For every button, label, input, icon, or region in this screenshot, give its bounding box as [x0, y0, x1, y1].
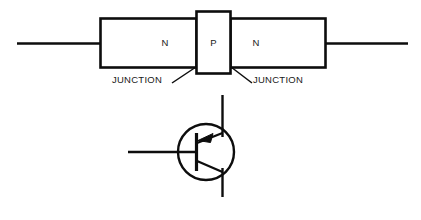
- p-region-center-label: P: [210, 37, 217, 48]
- n-region-left: [101, 19, 197, 68]
- junction-leader-right: [231, 67, 252, 83]
- transistor-figure: N P N JUNCTION JUNCTION: [0, 0, 421, 220]
- junction-leader-left: [172, 67, 196, 83]
- n-region-right: [231, 19, 326, 68]
- schematic-symbol: [128, 95, 234, 197]
- n-region-left-label: N: [161, 37, 168, 48]
- junction-label-left: JUNCTION: [112, 74, 162, 85]
- junction-label-right: JUNCTION: [253, 74, 303, 85]
- structure-diagram: N P N JUNCTION JUNCTION: [17, 12, 408, 85]
- n-region-right-label: N: [252, 37, 259, 48]
- figure-canvas: N P N JUNCTION JUNCTION: [0, 0, 421, 220]
